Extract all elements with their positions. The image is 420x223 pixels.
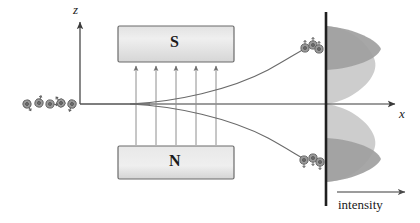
- z-axis-label: z: [73, 2, 78, 18]
- detected-atoms-upper: [301, 37, 323, 53]
- source-atoms: [21, 95, 77, 113]
- stern-gerlach-diagram: [0, 0, 420, 223]
- figure-canvas: z x S N intensity: [0, 0, 420, 223]
- magnet-pole-south-label: S: [170, 33, 179, 51]
- detected-atoms-lower: [300, 154, 324, 170]
- x-axis-label: x: [399, 106, 405, 122]
- magnet-pole-north-label: N: [169, 152, 181, 170]
- intensity-axis-label: intensity: [338, 197, 383, 213]
